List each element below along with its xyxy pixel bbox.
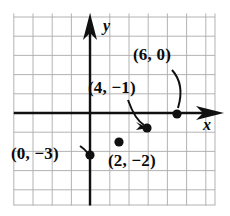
plot-canvas xyxy=(0,0,230,216)
data-point-6-0 xyxy=(172,109,181,118)
leader-line-6-0 xyxy=(172,70,180,108)
grid-lines xyxy=(14,14,215,206)
data-point-4-m1 xyxy=(142,123,151,132)
data-point-0-m3 xyxy=(85,150,94,159)
coordinate-plane-figure: (6, 0) (4, −1) (0, −3) (2, −2) y x xyxy=(0,0,230,216)
point-label-0-minus-3: (0, −3) xyxy=(11,145,59,162)
y-axis-label: y xyxy=(103,18,110,34)
point-label-6-0: (6, 0) xyxy=(133,46,171,63)
y-axis xyxy=(83,13,97,206)
point-label-2-minus-2: (2, −2) xyxy=(108,152,156,169)
data-point-2-m2 xyxy=(114,137,123,146)
x-axis xyxy=(14,106,224,120)
point-label-4-minus-1: (4, −1) xyxy=(88,79,136,96)
x-axis-label: x xyxy=(203,117,211,133)
